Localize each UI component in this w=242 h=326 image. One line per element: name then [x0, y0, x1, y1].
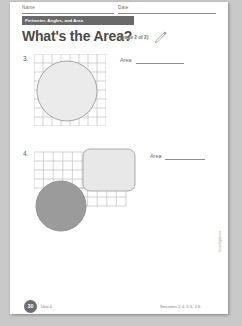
- pencil-icon: [154, 31, 168, 43]
- problem-3-circle-shape: [32, 59, 106, 125]
- side-margin-note: Investigations: [218, 192, 222, 252]
- page-number-badge: 30: [24, 300, 37, 313]
- footer-unit-text: Unit 4: [41, 304, 52, 309]
- problem-4-rounded-rect-shape: [82, 148, 138, 194]
- problem-3-area-answer-line[interactable]: [136, 63, 184, 64]
- page-number-text: 30: [24, 300, 37, 313]
- problem-4-number: 4.: [23, 150, 28, 157]
- unit-banner: Perimeter, Angles, and Area: [22, 16, 134, 25]
- page-title-note: (page 2 of 2): [120, 35, 148, 40]
- page-title: What's the Area?: [22, 28, 132, 44]
- name-label: Name: [22, 5, 35, 10]
- problem-4-circle-shape: [34, 180, 90, 234]
- title-row: What's the Area? (page 2 of 2): [22, 28, 216, 46]
- problem-4-area-label: Area: [150, 153, 161, 159]
- unit-banner-label: Perimeter, Angles, and Area: [25, 18, 83, 23]
- footer-sessions-text: Sessions 2.4, 2.5, 2.6: [160, 304, 200, 309]
- date-write-line[interactable]: [118, 13, 216, 14]
- name-write-line[interactable]: [22, 13, 114, 14]
- problem-3-number: 3.: [23, 55, 28, 62]
- worksheet-page: Name Date Perimeter, Angles, and Area Wh…: [0, 0, 242, 326]
- problem-4-area-answer-line[interactable]: [165, 159, 205, 160]
- problem-3-area-label: Area: [120, 57, 131, 63]
- paper-sheet: Name Date Perimeter, Angles, and Area Wh…: [10, 2, 228, 314]
- date-label: Date: [118, 5, 129, 10]
